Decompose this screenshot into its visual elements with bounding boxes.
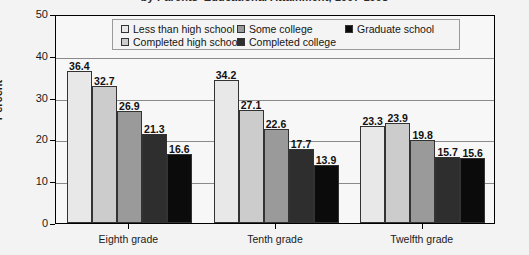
- y-tick-label: 40: [22, 50, 48, 62]
- legend-item: Less than high school: [121, 24, 235, 35]
- y-tick-label: 50: [22, 8, 48, 20]
- bar-value-label: 23.9: [379, 112, 416, 124]
- legend-swatch-icon: [237, 25, 245, 33]
- bar-value-label: 26.9: [111, 100, 148, 112]
- bar: [460, 158, 485, 223]
- legend-label: Some college: [249, 24, 313, 35]
- legend: Less than high schoolCompleted high scho…: [112, 19, 460, 50]
- chart-screenshot: by Parents' Educational Attainment, 1997…: [0, 0, 529, 255]
- x-category-label: Eighth grade: [68, 233, 188, 245]
- legend-label: Graduate school: [357, 24, 434, 35]
- bar-value-label: 16.6: [161, 143, 198, 155]
- bar-value-label: 15.6: [454, 147, 491, 159]
- y-tick-label: 0: [22, 217, 48, 229]
- legend-label: Less than high school: [133, 24, 235, 35]
- x-category-label: Tenth grade: [215, 233, 335, 245]
- y-tick-label: 10: [22, 175, 48, 187]
- legend-label: Completed college: [249, 37, 336, 48]
- bar: [314, 165, 339, 223]
- bar-value-label: 21.3: [136, 123, 173, 135]
- x-tick-mark: [128, 224, 129, 229]
- x-tick-mark: [275, 224, 276, 229]
- bar-value-label: 32.7: [86, 75, 123, 87]
- bar: [360, 126, 385, 223]
- bar-value-label: 34.2: [208, 69, 245, 81]
- bar-value-label: 17.7: [283, 138, 320, 150]
- bar: [167, 154, 192, 223]
- legend-item: Completed college: [237, 37, 336, 48]
- y-axis-title: Percent: [0, 80, 4, 120]
- legend-label: Completed high school: [133, 37, 240, 48]
- y-tick-mark: [50, 224, 55, 225]
- legend-swatch-icon: [121, 25, 129, 33]
- chart-title: by Parents' Educational Attainment, 1997…: [0, 0, 529, 3]
- x-category-label: Twelfth grade: [362, 233, 482, 245]
- bar-value-label: 36.4: [61, 60, 98, 72]
- x-tick-mark: [422, 224, 423, 229]
- y-tick-label: 20: [22, 133, 48, 145]
- bar-value-label: 27.1: [233, 99, 270, 111]
- bar-value-label: 13.9: [308, 154, 345, 166]
- legend-item: Some college: [237, 24, 313, 35]
- bar-value-label: 19.8: [404, 129, 441, 141]
- bar-value-label: 22.6: [258, 118, 295, 130]
- legend-swatch-icon: [345, 25, 353, 33]
- legend-item: Completed high school: [121, 37, 240, 48]
- legend-item: Graduate school: [345, 24, 434, 35]
- legend-swatch-icon: [121, 38, 129, 46]
- bar: [435, 157, 460, 223]
- y-tick-label: 30: [22, 92, 48, 104]
- bar: [67, 71, 92, 223]
- legend-swatch-icon: [237, 38, 245, 46]
